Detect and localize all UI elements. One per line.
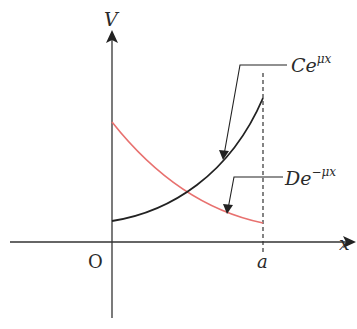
decay-curve	[112, 122, 263, 223]
x-axis	[10, 236, 356, 248]
x-axis-label: x	[339, 232, 350, 254]
y-axis	[106, 30, 118, 318]
decay-curve-label: De−μx	[284, 165, 336, 189]
growth-curve-label: Ceμx	[291, 52, 332, 76]
exponential-diagram: V x O a Ceμx De−μx	[0, 0, 357, 329]
decay-curve-leader	[223, 177, 283, 214]
origin-label: O	[88, 251, 103, 272]
x-marker-label: a	[257, 251, 268, 272]
leader-arrow-icon	[223, 204, 233, 214]
y-axis-label: V	[104, 8, 120, 30]
growth-curve-leader	[219, 65, 287, 160]
growth-curve	[112, 98, 263, 221]
